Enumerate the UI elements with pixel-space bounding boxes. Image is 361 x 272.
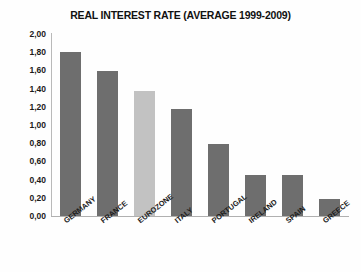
y-tick-label: 1,00 — [0, 120, 46, 130]
bar-slot — [282, 34, 303, 216]
y-tick-label: 0,40 — [0, 175, 46, 185]
y-tick-label: 2,00 — [0, 29, 46, 39]
y-tick-label: 0,20 — [0, 193, 46, 203]
y-tick-label: 0,00 — [0, 211, 46, 221]
chart-title: REAL INTEREST RATE (AVERAGE 1999-2009) — [0, 9, 361, 21]
plot-area — [52, 34, 348, 216]
bar-slot — [134, 34, 155, 216]
y-tick-label: 0,60 — [0, 156, 46, 166]
bar-france[interactable] — [97, 71, 118, 216]
y-tick-label: 1,40 — [0, 84, 46, 94]
x-axis-line — [51, 216, 349, 217]
y-axis-tick-labels: 2,001,801,601,401,201,000,800,600,400,20… — [0, 34, 46, 216]
bar-slot — [319, 34, 340, 216]
y-tick-label: 1,60 — [0, 65, 46, 75]
bar-slot — [245, 34, 266, 216]
bar-eurozone[interactable] — [134, 91, 155, 216]
bar-germany[interactable] — [60, 52, 81, 216]
y-tick-label: 1,80 — [0, 47, 46, 57]
bar-slot — [208, 34, 229, 216]
bar-slot — [97, 34, 118, 216]
chart-figure: REAL INTEREST RATE (AVERAGE 1999-2009) 2… — [0, 0, 361, 272]
bar-italy[interactable] — [171, 109, 192, 216]
bar-slot — [60, 34, 81, 216]
bar-slot — [171, 34, 192, 216]
x-axis-tick-labels: GERMANYFRANCEEUROZONEITALYPORTUGALIRELAN… — [52, 218, 348, 272]
y-tick-label: 1,20 — [0, 102, 46, 112]
y-tick-label: 0,80 — [0, 138, 46, 148]
